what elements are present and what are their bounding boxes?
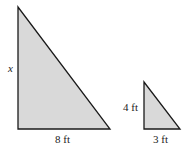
large-triangle-height-label: x [8,63,13,74]
small-triangle-base-label: 3 ft [153,134,168,145]
small-triangle-height-label: 4 ft [123,102,138,113]
large-right-triangle [18,7,110,129]
small-right-triangle [144,82,180,129]
similar-triangles-figure [0,0,185,152]
large-triangle-base-label: 8 ft [55,134,70,145]
